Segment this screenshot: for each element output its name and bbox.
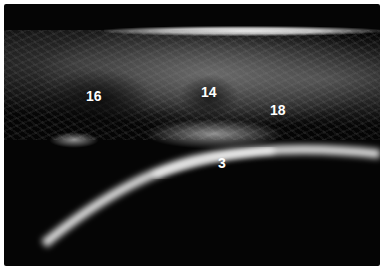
bone-surface [4,4,380,266]
label-14: 14 [201,84,217,100]
label-3: 3 [218,155,226,171]
ultrasound-image: 16 14 18 3 [0,0,384,272]
scan-area: 16 14 18 3 [4,4,380,266]
label-16: 16 [86,88,102,104]
label-18: 18 [270,102,286,118]
